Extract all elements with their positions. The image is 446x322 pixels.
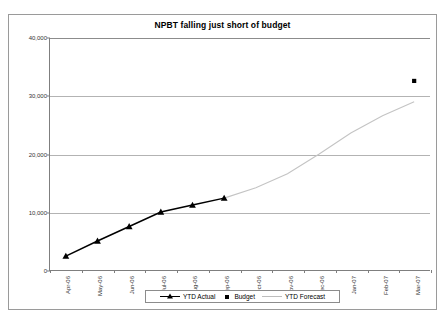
x-tick-label: May-06 (97, 276, 103, 296)
x-tick-label: Feb-07 (383, 276, 389, 295)
x-tick-mark (336, 270, 337, 273)
x-tick-label: Jan-07 (351, 276, 357, 294)
x-tick-mark (399, 270, 400, 273)
x-tick-mark (145, 270, 146, 273)
chart-frame: NPBT falling just short of budget 010,00… (8, 14, 437, 310)
x-tick-label: Jun-06 (129, 276, 135, 294)
x-tick-mark (114, 270, 115, 273)
ytd-actual-markers (62, 195, 227, 259)
y-tick-label: 10,000 (29, 210, 47, 216)
budget-point-marker (412, 79, 416, 83)
x-tick-mark (368, 270, 369, 273)
x-tick-label: Apr-06 (65, 276, 71, 294)
y-tick-label: 20,000 (29, 152, 47, 158)
legend-label-ytd-forecast: YTD Forecast (285, 293, 325, 300)
chart-title: NPBT falling just short of budget (9, 20, 436, 30)
x-tick-mark (431, 270, 432, 273)
legend-item-ytd-forecast: YTD Forecast (262, 292, 325, 301)
x-tick-label: Mar-07 (415, 276, 421, 295)
ytd-forecast-line (224, 102, 414, 198)
x-tick-mark (304, 270, 305, 273)
x-tick-mark (50, 270, 51, 273)
y-tick-label: 30,000 (29, 93, 47, 99)
x-tick-mark (177, 270, 178, 273)
legend-label-ytd-actual: YTD Actual (183, 293, 216, 300)
series-layer (50, 38, 430, 270)
y-tick-label: 40,000 (29, 35, 47, 41)
ytd-actual-line (66, 198, 224, 256)
x-tick-mark (82, 270, 83, 273)
ytd-actual-key-icon (160, 292, 180, 301)
budget-key-icon (222, 292, 231, 301)
plot-area: 010,00020,00030,00040,000 Apr-06May-06Ju… (49, 38, 430, 271)
legend-item-ytd-actual: YTD Actual (160, 292, 216, 301)
x-tick-mark (272, 270, 273, 273)
legend-item-budget: Budget (222, 292, 255, 301)
budget-markers (412, 79, 416, 83)
x-tick-mark (209, 270, 210, 273)
ytd-forecast-key-icon (262, 292, 282, 301)
chart-legend: YTD Actual Budget YTD Forecast (145, 290, 340, 303)
legend-label-budget: Budget (234, 293, 255, 300)
y-tick-label: 0 (44, 268, 47, 274)
x-tick-mark (241, 270, 242, 273)
